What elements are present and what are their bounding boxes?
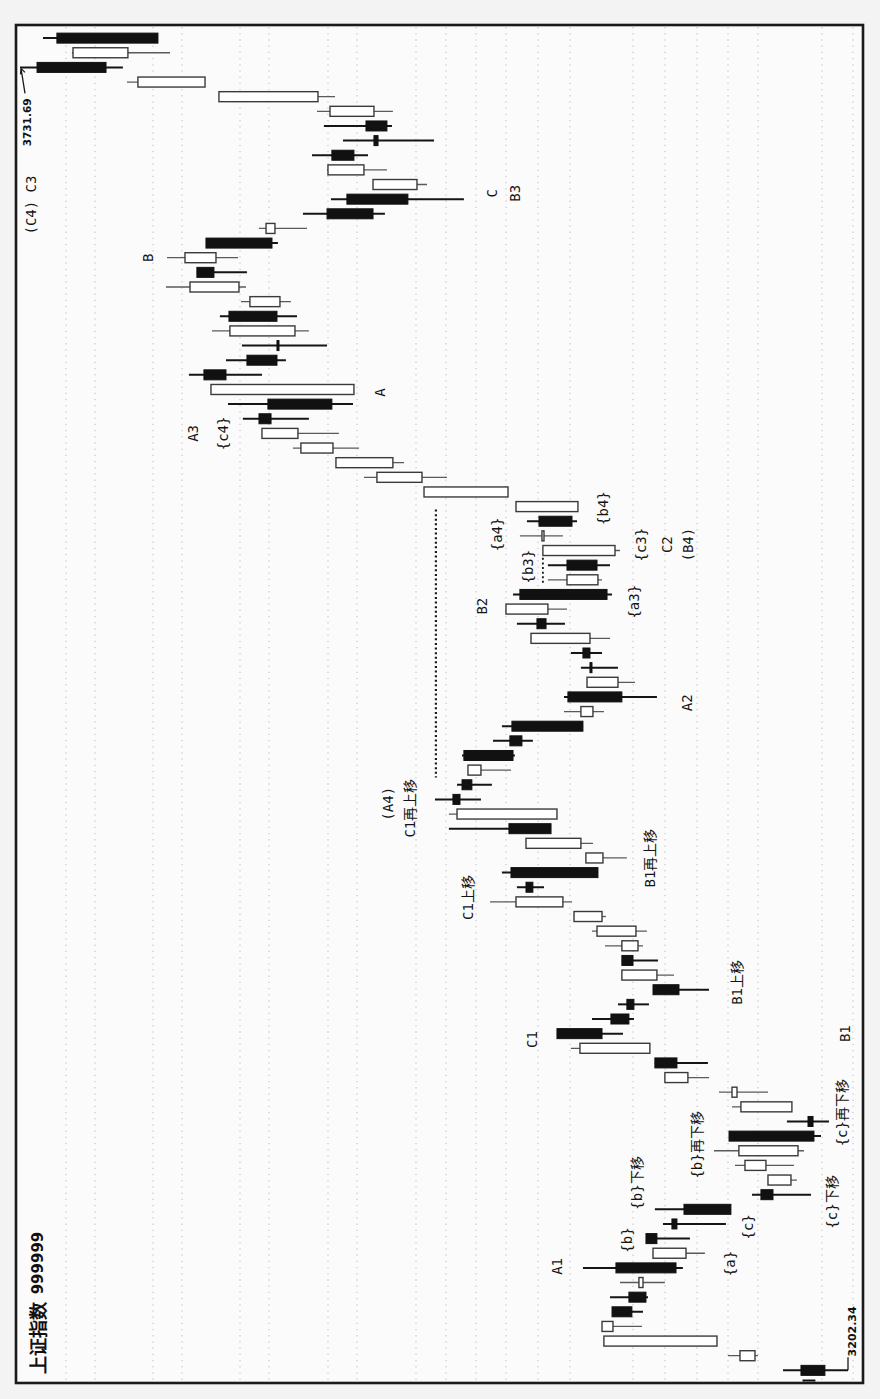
candle-up bbox=[574, 912, 606, 922]
wave-label: B bbox=[140, 254, 156, 262]
wave-label: {c} bbox=[740, 1214, 756, 1239]
candle-body bbox=[729, 1131, 814, 1141]
candle-body bbox=[424, 487, 508, 497]
candle-body bbox=[622, 955, 633, 965]
candle-body bbox=[510, 736, 522, 746]
candle-down bbox=[502, 868, 598, 878]
candle-body bbox=[684, 1204, 731, 1214]
candle-body bbox=[732, 1087, 737, 1097]
candle-body bbox=[247, 355, 277, 365]
wave-label: {a} bbox=[722, 1251, 738, 1276]
instrument-name: 上证指数 bbox=[28, 1301, 49, 1374]
candle-body bbox=[526, 838, 581, 848]
candle-body bbox=[611, 1014, 629, 1024]
candle-body bbox=[590, 663, 592, 673]
candle-body bbox=[185, 253, 216, 263]
candle-body bbox=[206, 238, 272, 248]
candle-body bbox=[574, 912, 602, 922]
candle-body bbox=[622, 970, 657, 980]
wave-label: {c}下移 bbox=[824, 1175, 840, 1228]
wave-label: {b}下移 bbox=[629, 1156, 645, 1209]
candle-body bbox=[259, 414, 271, 424]
candle-body bbox=[453, 794, 460, 804]
candle-up bbox=[604, 1336, 717, 1346]
wave-label: B1再上移 bbox=[642, 829, 658, 888]
low-price-label: 3202.34 bbox=[847, 1306, 860, 1356]
candle-body bbox=[330, 106, 374, 116]
candle-body bbox=[516, 502, 578, 512]
candle-up bbox=[571, 1043, 650, 1053]
candle-body bbox=[211, 384, 354, 394]
candle-up bbox=[211, 384, 354, 394]
wave-label: C1再上移 bbox=[402, 779, 418, 838]
wave-label: B1 bbox=[837, 1025, 853, 1042]
candle-body bbox=[583, 648, 590, 658]
instrument-code: 999999 bbox=[29, 1232, 47, 1295]
candle-body bbox=[190, 282, 239, 292]
candle-body bbox=[629, 1292, 646, 1302]
candle-body bbox=[138, 77, 205, 87]
wave-label: {b4} bbox=[595, 491, 611, 525]
candle-body bbox=[266, 223, 275, 233]
wave-label: {c4} bbox=[215, 417, 231, 451]
candle-body bbox=[373, 180, 417, 190]
wave-label: {a4} bbox=[489, 518, 505, 552]
candle-up bbox=[424, 487, 508, 497]
wave-label: {c3} bbox=[633, 528, 649, 562]
wave-label: (A4) bbox=[380, 787, 396, 821]
wave-label: (C4) C3 bbox=[23, 176, 39, 235]
candle-body bbox=[37, 62, 106, 72]
candle-up bbox=[543, 546, 620, 556]
candle-body bbox=[301, 443, 333, 453]
wave-label: C bbox=[484, 189, 500, 197]
candle-body bbox=[653, 1248, 686, 1258]
candle-body bbox=[457, 809, 557, 819]
candle-body bbox=[229, 311, 277, 321]
candle-body bbox=[526, 882, 533, 892]
wave-label: A bbox=[372, 388, 388, 397]
candle-body bbox=[587, 677, 618, 687]
candle-body bbox=[639, 1278, 643, 1288]
wave-label: {b3} bbox=[520, 550, 536, 584]
candle-body bbox=[250, 297, 280, 307]
candle-down bbox=[502, 721, 583, 731]
wave-label: A3 bbox=[185, 425, 201, 442]
candle-body bbox=[327, 209, 373, 219]
candle-body bbox=[464, 750, 513, 760]
candlestick-chart: (C4) C3BA3{c4}ACB3{a4}{b4}{b3}{c3}C2(B4)… bbox=[0, 0, 880, 1399]
candle-body bbox=[622, 941, 638, 951]
candle-body bbox=[468, 765, 481, 775]
candle-body bbox=[543, 546, 615, 556]
candle-body bbox=[616, 1263, 676, 1273]
candle-body bbox=[801, 1365, 825, 1375]
candle-body bbox=[604, 1336, 717, 1346]
wave-label: {b} bbox=[619, 1227, 635, 1252]
candle-body bbox=[377, 472, 422, 482]
candle-up bbox=[516, 502, 578, 512]
wave-label: A1 bbox=[549, 1258, 565, 1275]
candle-body bbox=[612, 1307, 632, 1317]
candle-body bbox=[745, 1160, 766, 1170]
candle-body bbox=[761, 1190, 773, 1200]
candle-down bbox=[43, 33, 158, 43]
wave-label: B1上移 bbox=[729, 960, 745, 1005]
candle-body bbox=[581, 707, 593, 717]
candle-body bbox=[597, 926, 636, 936]
candle-body bbox=[602, 1321, 613, 1331]
candle-body bbox=[542, 531, 544, 541]
candle-body bbox=[336, 458, 393, 468]
candle-body bbox=[539, 516, 572, 526]
candle-body bbox=[520, 589, 607, 599]
candle-body bbox=[506, 604, 548, 614]
candle-body bbox=[580, 1043, 650, 1053]
candle-body bbox=[73, 48, 128, 58]
candle-body bbox=[741, 1102, 792, 1112]
candle-body bbox=[332, 150, 354, 160]
candle-body bbox=[653, 985, 679, 995]
candle-down bbox=[462, 750, 515, 760]
candle-body bbox=[665, 1073, 688, 1083]
candle-body bbox=[531, 633, 590, 643]
candle-down bbox=[206, 238, 278, 248]
wave-label: A2 bbox=[679, 694, 695, 711]
candle-body bbox=[262, 428, 298, 438]
